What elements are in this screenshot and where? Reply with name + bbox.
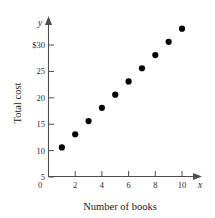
scatter-chart-figure: $30 25 20 15 10 5 0 2 4 6 8 10 y x Numbe… [0,0,215,218]
data-point [72,131,78,137]
data-point [152,52,158,58]
x-tick-label-2: 2 [73,180,77,190]
data-point [126,78,132,84]
x-tick-label-10: 10 [178,180,187,190]
data-point [166,39,172,45]
x-axis-arrow-icon [193,173,202,180]
data-point [179,26,185,32]
x-axis [49,173,203,180]
x-axis-title: Number of books [83,201,157,212]
y-tick-label-30: $30 [32,40,45,50]
data-point [59,144,65,150]
y-tick-label-10: 10 [37,146,46,156]
y-axis [45,16,52,177]
data-point [112,92,118,98]
x-tick-marks [75,171,182,177]
x-tick-label-4: 4 [100,180,105,190]
x-axis-variable-label: x [197,180,203,190]
data-point [85,118,91,124]
y-axis-arrow-icon [45,16,52,25]
y-tick-label-20: 20 [37,93,46,103]
data-point [99,105,105,111]
y-tick-marks [49,45,55,177]
y-tick-label-15: 15 [37,119,46,129]
x-tick-label-6: 6 [126,180,130,190]
chart-plot-area: $30 25 20 15 10 5 0 2 4 6 8 10 y x Numbe… [0,0,215,218]
origin-label: 0 [38,180,42,190]
data-point [139,65,145,71]
x-tick-label-8: 8 [153,180,157,190]
y-tick-label-25: 25 [37,66,46,76]
y-axis-variable-label: y [37,18,43,28]
data-point-series [59,26,185,151]
y-axis-title: Total cost [12,82,23,123]
